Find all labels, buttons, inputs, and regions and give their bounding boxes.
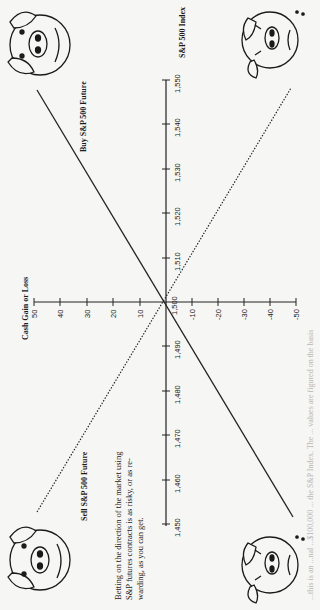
caption-line: Betting on the direction of the market u… bbox=[113, 452, 124, 600]
index-tick-label: 1,540 bbox=[173, 118, 182, 137]
happy-pig-icon-top-left bbox=[8, 12, 70, 75]
index-tick-label: 1,470 bbox=[173, 429, 182, 448]
cash-tick-label: 20 bbox=[109, 310, 118, 318]
buy-future-line bbox=[37, 90, 293, 517]
index-tick-label: 1,550 bbox=[173, 74, 182, 93]
cash-tick-label: 40 bbox=[56, 310, 65, 318]
buy-line-label: Buy S&P 500 Future bbox=[79, 81, 88, 152]
index-tick-label: 1,510 bbox=[173, 252, 182, 271]
sell-future-line bbox=[37, 88, 291, 512]
sad-pig-icon-bottom-right bbox=[242, 536, 304, 603]
chart-canvas bbox=[0, 0, 320, 610]
cash-tick-label: -30 bbox=[240, 309, 249, 320]
cash-tick-label: 30 bbox=[83, 310, 92, 318]
cash-tick-label: 10 bbox=[136, 310, 145, 318]
index-axis-title: S&P 500 Index bbox=[178, 7, 187, 58]
sell-line-label: Sell S&P 500 Future bbox=[80, 452, 89, 521]
cash-tick-label: 50 bbox=[30, 310, 39, 318]
index-tick-label: 1,450 bbox=[173, 518, 182, 537]
index-tick-label: 1,490 bbox=[173, 340, 182, 359]
index-tick-label: 1,480 bbox=[173, 385, 182, 404]
caption-line: warding, as you can get. bbox=[135, 452, 146, 600]
index-tick-label: 1,500 bbox=[170, 296, 179, 315]
cash-axis-title: Cash Gain or Loss bbox=[21, 277, 30, 340]
bleed-through-text: ...this is an ...nal ...$100,000 ... the… bbox=[306, 330, 315, 600]
happy-pig-icon-bottom-left bbox=[8, 527, 70, 590]
cash-tick-label: -10 bbox=[188, 309, 197, 320]
index-tick-label: 1,460 bbox=[173, 474, 182, 493]
chart-caption: Betting on the direction of the market u… bbox=[113, 452, 146, 600]
cash-tick-label: -40 bbox=[266, 309, 275, 320]
sad-pig-icon-top-right bbox=[242, 11, 304, 78]
index-tick-label: 1,520 bbox=[173, 207, 182, 226]
cash-tick-label: -50 bbox=[292, 309, 301, 320]
cash-tick-label: -20 bbox=[214, 309, 223, 320]
caption-line: S&P futures contracts is as risky, or as… bbox=[124, 452, 135, 600]
index-tick-label: 1,530 bbox=[173, 163, 182, 182]
